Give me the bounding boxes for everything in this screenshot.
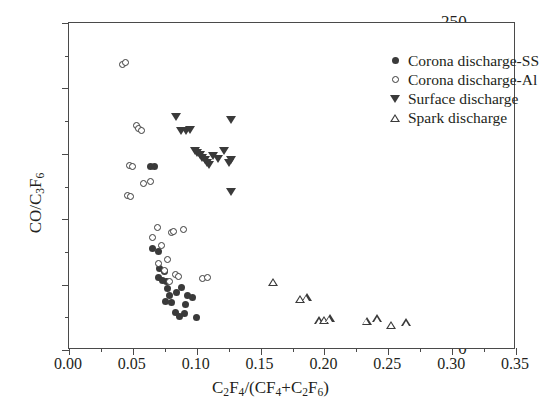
legend-item-label: Surface discharge	[408, 89, 518, 108]
data-point	[164, 285, 171, 292]
data-point	[386, 321, 396, 329]
data-point	[175, 273, 182, 280]
x-axis-tick	[133, 348, 134, 355]
data-point	[140, 180, 147, 187]
data-point	[138, 127, 145, 134]
x-axis-tick	[69, 348, 70, 355]
y-axis-title-text: CO/C3F6	[26, 173, 45, 234]
x-axis-minor-tick	[165, 348, 166, 352]
x-axis-title: C2F4/(CF4+C2F6)	[0, 378, 541, 399]
data-point	[193, 314, 200, 321]
data-point	[189, 294, 196, 301]
open-circle-icon	[387, 76, 403, 83]
x-axis-tick	[261, 348, 262, 355]
x-axis-minor-tick	[356, 348, 357, 352]
y-axis-tick	[62, 88, 69, 89]
data-point	[213, 155, 223, 163]
data-point	[164, 256, 171, 263]
data-point	[226, 116, 236, 124]
data-point	[268, 278, 278, 286]
data-point	[372, 314, 382, 322]
x-axis-minor-tick	[420, 348, 421, 352]
data-point	[166, 278, 173, 285]
filled-triangle-down-glyph	[390, 95, 400, 103]
x-axis-tick-label: 0.25	[373, 355, 401, 373]
x-axis-tick-label: 0.15	[246, 355, 274, 373]
y-axis-tick	[62, 154, 69, 155]
data-point	[155, 260, 162, 267]
legend-item-label: Corona discharge-SS	[408, 51, 539, 70]
y-axis-tick	[62, 23, 69, 24]
x-axis-minor-tick	[101, 348, 102, 352]
data-point	[181, 310, 188, 317]
chart-legend: Corona discharge-SSCorona discharge-AlSu…	[387, 51, 539, 127]
x-axis-tick-label: 0.05	[118, 355, 146, 373]
data-point	[151, 163, 158, 170]
legend-item: Spark discharge	[387, 108, 539, 127]
data-point	[147, 178, 154, 185]
data-point	[129, 163, 136, 170]
open-triangle-up-icon	[387, 114, 403, 122]
x-axis-minor-tick	[229, 348, 230, 352]
open-circle-glyph	[392, 76, 399, 83]
data-point	[182, 301, 189, 308]
legend-item-label: Spark discharge	[408, 108, 507, 127]
filled-circle-glyph	[392, 57, 399, 64]
x-axis-tick-label: 0.20	[309, 355, 337, 373]
x-axis-tick	[388, 348, 389, 355]
x-axis-minor-tick	[293, 348, 294, 352]
x-axis-tick	[516, 348, 517, 355]
data-point	[325, 314, 335, 322]
x-axis-tick-label: 0.00	[54, 355, 82, 373]
data-point	[204, 274, 211, 281]
x-axis-tick	[197, 348, 198, 355]
x-axis-minor-tick	[484, 348, 485, 352]
y-axis-tick	[62, 285, 69, 286]
data-point	[122, 59, 129, 66]
x-axis-tick-label: 0.35	[501, 355, 529, 373]
data-point	[127, 193, 134, 200]
filled-triangle-down-icon	[387, 95, 403, 103]
y-axis-tick	[62, 219, 69, 220]
legend-item-label: Corona discharge-Al	[408, 70, 537, 89]
x-axis-tick-label: 0.10	[182, 355, 210, 373]
legend-item: Corona discharge-Al	[387, 70, 539, 89]
data-point	[149, 234, 156, 241]
x-axis-tick	[452, 348, 453, 355]
y-axis-title: CO/C3F6	[26, 173, 47, 234]
data-point	[173, 289, 180, 296]
data-point	[180, 226, 187, 233]
x-axis-tick-label: 0.30	[437, 355, 465, 373]
data-point	[219, 147, 229, 155]
y-axis-tick	[62, 350, 69, 351]
data-point	[224, 159, 234, 167]
data-point	[154, 224, 161, 231]
legend-item: Corona discharge-SS	[387, 51, 539, 70]
plot-area: Corona discharge-SSCorona discharge-AlSu…	[68, 22, 515, 349]
data-point	[155, 248, 162, 255]
data-point	[185, 126, 195, 134]
data-point	[161, 267, 168, 274]
x-axis-tick	[324, 348, 325, 355]
data-point	[362, 317, 372, 325]
filled-circle-icon	[387, 57, 403, 64]
x-axis-title-text: C2F4/(CF4+C2F6)	[212, 378, 329, 397]
data-point	[158, 242, 165, 249]
data-point	[171, 113, 181, 121]
data-point	[226, 188, 236, 196]
data-point	[302, 293, 312, 301]
data-point	[170, 228, 177, 235]
data-point	[401, 318, 411, 326]
open-triangle-up-glyph	[390, 114, 400, 122]
chart-figure: CO/C3F6 C2F4/(CF4+C2F6) 0501001502002500…	[0, 0, 541, 406]
legend-item: Surface discharge	[387, 89, 539, 108]
